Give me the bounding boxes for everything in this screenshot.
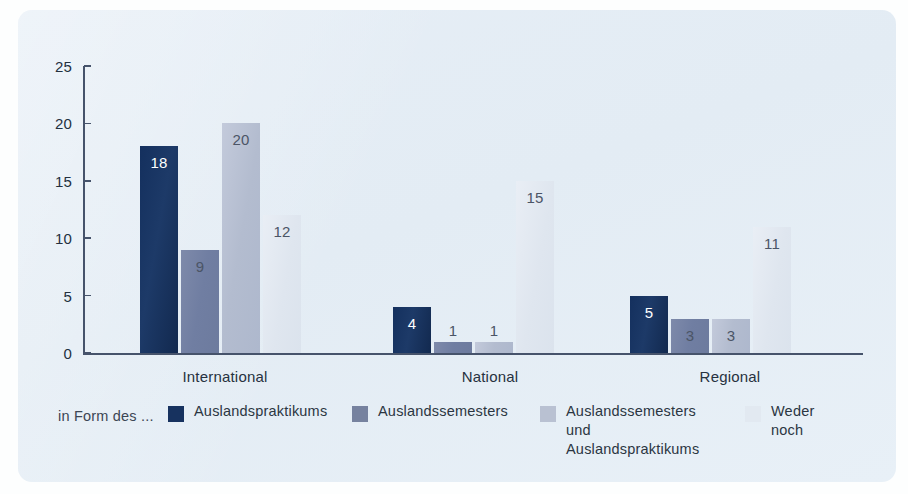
category-label-international: International: [145, 368, 305, 385]
category-label-national: National: [410, 368, 570, 385]
legend-swatch-icon: [168, 406, 184, 422]
bar: [475, 342, 513, 353]
bar: [434, 342, 472, 353]
bar: [140, 146, 178, 353]
bar-value-label: 5: [630, 304, 668, 321]
bar-value-label: 18: [140, 154, 178, 171]
bar-chart: 0510152025 18920124111553311 Internation…: [0, 0, 908, 494]
chart-legend: in Form des ... AuslandspraktikumsAuslan…: [0, 402, 908, 462]
legend-label: Auslandspraktikums: [194, 402, 327, 421]
bar-value-label: 3: [712, 327, 750, 344]
legend-swatch-icon: [540, 406, 556, 422]
bar-value-label: 1: [475, 322, 513, 339]
legend-label: Auslandssemesters und Auslandspraktikums: [566, 402, 699, 459]
bar: [222, 123, 260, 353]
legend-swatch-icon: [352, 406, 368, 422]
chart-page: 0510152025 18920124111553311 Internation…: [0, 0, 908, 494]
bar-value-label: 4: [393, 315, 431, 332]
legend-label: Auslandssemesters: [378, 402, 508, 421]
bar-value-label: 9: [181, 258, 219, 275]
bar: [516, 181, 554, 353]
bar-value-label: 12: [263, 223, 301, 240]
bar-value-label: 3: [671, 327, 709, 344]
legend-swatch-icon: [745, 406, 761, 422]
category-label-regional: Regional: [650, 368, 810, 385]
bar-value-label: 20: [222, 131, 260, 148]
bar-value-label: 11: [753, 235, 791, 252]
bar-value-label: 15: [516, 189, 554, 206]
bars-layer: 18920124111553311: [0, 0, 908, 354]
bar-value-label: 1: [434, 322, 472, 339]
legend-prefix-label: in Form des ...: [58, 408, 154, 424]
legend-label: Weder noch: [771, 402, 814, 440]
